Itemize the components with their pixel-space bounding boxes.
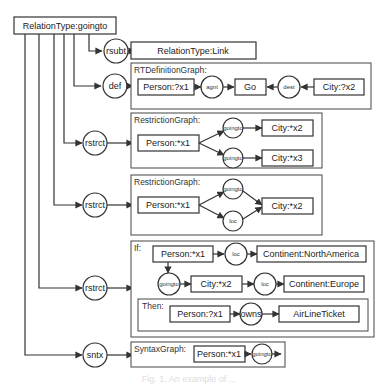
svg-text:goingto: goingto xyxy=(223,155,243,161)
branch-rstrct-if-then: rstrct If: Person:*x1 loc Continent:Nort… xyxy=(83,241,374,337)
svg-text:RelationType:Link: RelationType:Link xyxy=(157,46,229,56)
svg-text:City:*x2: City:*x2 xyxy=(271,123,302,133)
svg-text:owns: owns xyxy=(240,309,262,319)
svg-text:RTDefinitionGraph:: RTDefinitionGraph: xyxy=(134,65,207,75)
svg-text:Person:*x1: Person:*x1 xyxy=(197,349,241,359)
svg-text:Continent:Europe: Continent:Europe xyxy=(289,279,359,289)
branch-rsubt: rsubt RelationType:Link xyxy=(104,39,256,63)
svg-text:Person:?x1: Person:?x1 xyxy=(177,309,223,319)
svg-text:agnt: agnt xyxy=(206,84,218,90)
svg-text:dest: dest xyxy=(283,84,295,90)
svg-text:If:: If: xyxy=(134,243,141,253)
svg-text:AirLineTicket: AirLineTicket xyxy=(293,309,345,319)
svg-text:rsubt: rsubt xyxy=(106,46,127,56)
svg-text:loc: loc xyxy=(232,251,240,257)
svg-text:goingto: goingto xyxy=(159,281,179,287)
svg-text:Continent:NorthAmerica: Continent:NorthAmerica xyxy=(263,249,359,259)
branch-rstrct-2: rstrct RestrictionGraph: Person:*x1 goin… xyxy=(83,175,322,235)
svg-text:City:?x2: City:?x2 xyxy=(323,82,356,92)
svg-text:loc: loc xyxy=(229,218,237,224)
svg-text:RestrictionGraph:: RestrictionGraph: xyxy=(134,115,200,125)
branch-rstrct-1: rstrct RestrictionGraph: Person:*x1 goin… xyxy=(83,113,322,168)
svg-text:Then:: Then: xyxy=(142,301,164,311)
svg-text:goingto: goingto xyxy=(223,125,243,131)
svg-text:loc: loc xyxy=(261,281,269,287)
svg-text:rstrct: rstrct xyxy=(85,138,105,148)
svg-text:City:*x2: City:*x2 xyxy=(200,279,231,289)
root-node: RelationType:goingto xyxy=(14,17,116,34)
svg-text:Person:*x1: Person:*x1 xyxy=(146,138,190,148)
svg-text:Person:*x1: Person:*x1 xyxy=(161,249,205,259)
conceptual-graph-diagram: RelationType:goingto rsubt RelationType:… xyxy=(0,0,378,385)
branch-sntx: sntx SyntaxGraph: Person:*x1 goingto xyxy=(83,342,285,367)
svg-text:RestrictionGraph:: RestrictionGraph: xyxy=(134,177,200,187)
svg-text:City:*x3: City:*x3 xyxy=(271,153,302,163)
svg-text:Go: Go xyxy=(244,82,256,92)
svg-text:SyntaxGraph:: SyntaxGraph: xyxy=(134,344,186,354)
branch-def: def RTDefinitionGraph: Person:?x1 agnt G… xyxy=(103,63,371,109)
svg-text:RelationType:goingto: RelationType:goingto xyxy=(23,21,108,31)
svg-text:goingto: goingto xyxy=(223,186,243,192)
svg-text:Person:?x1: Person:?x1 xyxy=(143,82,189,92)
svg-text:rstrct: rstrct xyxy=(85,200,105,210)
svg-text:goingto: goingto xyxy=(252,351,272,357)
figure-caption: Fig. 1. An example of ... xyxy=(142,374,237,384)
svg-text:rstrct: rstrct xyxy=(85,283,105,293)
svg-text:sntx: sntx xyxy=(87,350,104,360)
svg-text:City:*x2: City:*x2 xyxy=(271,201,302,211)
svg-text:Person:*x1: Person:*x1 xyxy=(146,200,190,210)
svg-text:def: def xyxy=(109,81,122,91)
